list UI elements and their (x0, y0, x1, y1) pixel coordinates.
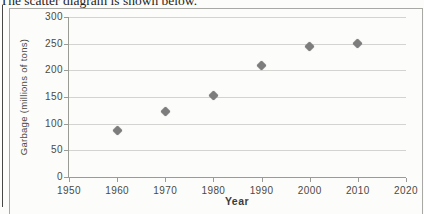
plot-area: 0501001502002503001950196019701980199020… (68, 17, 406, 178)
x-tick-1970 (165, 178, 166, 182)
y-gridline-200 (69, 70, 406, 71)
y-tick-200 (64, 70, 68, 71)
y-tick-label-300: 300 (37, 11, 63, 22)
y-axis-title: Garbage (millions of tons) (18, 39, 29, 156)
data-point-1980 (208, 90, 218, 100)
x-tick-label-2000: 2000 (292, 185, 328, 196)
x-tick-1950 (69, 178, 70, 182)
y-tick-150 (64, 97, 68, 98)
x-tick-2000 (310, 178, 311, 182)
data-point-1970 (160, 107, 170, 117)
y-gridline-300 (69, 17, 406, 18)
x-tick-label-1950: 1950 (51, 185, 87, 196)
y-tick-250 (64, 44, 68, 45)
y-tick-300 (64, 17, 68, 18)
x-axis-title: Year (225, 195, 249, 207)
x-tick-2010 (358, 178, 359, 182)
data-point-1990 (257, 60, 267, 70)
x-tick-1990 (262, 178, 263, 182)
y-tick-label-150: 150 (37, 91, 63, 102)
x-tick-1980 (213, 178, 214, 182)
y-tick-label-250: 250 (37, 38, 63, 49)
x-tick-label-2010: 2010 (340, 185, 376, 196)
x-tick-2020 (406, 178, 407, 182)
y-tick-100 (64, 124, 68, 125)
y-gridline-50 (69, 150, 406, 151)
y-tick-label-50: 50 (37, 144, 63, 155)
y-tick-label-100: 100 (37, 118, 63, 129)
x-tick-label-1970: 1970 (147, 185, 183, 196)
y-tick-50 (64, 150, 68, 151)
x-tick-1960 (117, 178, 118, 182)
y-tick-label-0: 0 (37, 171, 63, 182)
chart-container: Garbage (millions of tons) 0501001502002… (9, 8, 423, 214)
page-left-rule (2, 5, 3, 207)
data-point-2010 (353, 38, 363, 48)
x-tick-label-2020: 2020 (388, 185, 424, 196)
x-tick-label-1960: 1960 (99, 185, 135, 196)
y-gridline-150 (69, 97, 406, 98)
y-tick-0 (64, 177, 68, 178)
data-point-1960 (112, 125, 122, 135)
y-tick-label-200: 200 (37, 64, 63, 75)
y-gridline-100 (69, 124, 406, 125)
